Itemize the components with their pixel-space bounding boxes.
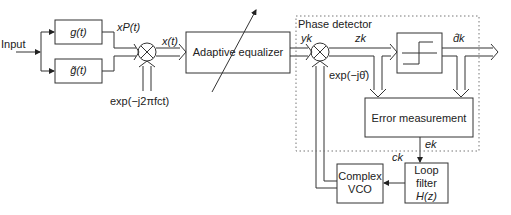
carrier-label: exp(−j2πfct) xyxy=(110,96,169,107)
loop-filter-line3: H(z) xyxy=(405,190,448,203)
loop-filter-line1: Loop xyxy=(405,164,448,177)
complex-vco-block: Complex VCO xyxy=(337,170,383,196)
g-tilde-block: g̃(t) xyxy=(55,64,102,77)
receiver-block-diagram: Input g(t) g̃(t) xP(t) x(t) exp(−j2πfct)… xyxy=(0,0,511,215)
input-label: Input xyxy=(1,39,25,50)
g-block: g(t) xyxy=(55,26,102,39)
x-signal-label: x(t) xyxy=(162,36,178,47)
xp-signal-label: xP(t) xyxy=(117,22,140,33)
theta-label: exp(−jθ̂) xyxy=(329,70,369,81)
loop-filter-block: Loop filter H(z) xyxy=(405,164,448,203)
adaptive-equalizer-block: Adaptive equalizer xyxy=(186,46,290,59)
ek-signal-label: ek xyxy=(425,139,437,150)
phase-detector-label: Phase detector xyxy=(298,19,372,30)
dk-signal-label: d̂k xyxy=(453,33,465,44)
zk-signal-label: zk xyxy=(355,33,366,44)
phase-detector-boundary xyxy=(296,16,479,151)
error-measurement-block: Error measurement xyxy=(365,112,473,125)
vco-line2: VCO xyxy=(337,183,383,196)
ck-signal-label: ck xyxy=(392,152,403,163)
yk-signal-label: yk xyxy=(301,33,312,44)
vco-line1: Complex xyxy=(337,170,383,183)
loop-filter-line2: filter xyxy=(405,177,448,190)
